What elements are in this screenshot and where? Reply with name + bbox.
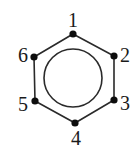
vertex-label-4: 4 [71, 127, 81, 149]
vertex-dot-3 [110, 96, 117, 103]
vertex-label-5: 5 [18, 93, 28, 115]
vertex-dot-2 [110, 52, 117, 59]
vertex-label-2: 2 [120, 44, 130, 66]
vertex-dot-5 [31, 97, 38, 104]
benzene-ring-diagram: 1 2 3 4 5 6 [0, 0, 137, 154]
vertex-dot-4 [71, 119, 78, 126]
vertex-label-6: 6 [18, 44, 28, 66]
vertex-dot-6 [30, 53, 37, 60]
vertex-dot-1 [69, 30, 76, 37]
aromatic-inner-circle [44, 49, 102, 107]
vertex-label-3: 3 [120, 92, 130, 114]
vertex-label-1: 1 [68, 9, 78, 31]
